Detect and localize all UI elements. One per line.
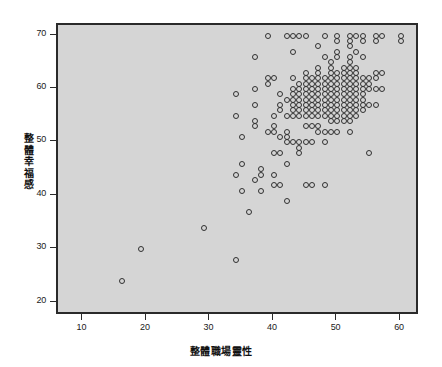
data-point: [296, 33, 302, 39]
data-point: [366, 150, 372, 156]
x-axis-tick-label: 60: [384, 322, 414, 332]
data-point: [334, 129, 340, 135]
data-point: [322, 33, 328, 39]
data-point: [347, 118, 353, 124]
data-point: [309, 113, 315, 119]
x-axis-tick-label: 10: [66, 322, 96, 332]
data-point: [347, 129, 353, 135]
data-point: [239, 188, 245, 194]
data-point: [373, 102, 379, 108]
data-point: [246, 209, 252, 215]
data-point: [233, 172, 239, 178]
data-point: [309, 182, 315, 188]
y-axis-tick-label: 20: [16, 295, 46, 305]
x-axis-title: 整體職場靈性: [0, 343, 442, 358]
data-point: [258, 172, 264, 178]
data-point: [303, 113, 309, 119]
data-point: [296, 150, 302, 156]
data-point: [322, 129, 328, 135]
x-axis-tick-label: 50: [320, 322, 350, 332]
data-point: [353, 33, 359, 39]
data-point: [360, 38, 366, 44]
data-point: [366, 86, 372, 92]
data-point: [252, 102, 258, 108]
data-point: [119, 278, 125, 284]
data-point: [334, 118, 340, 124]
data-point: [290, 139, 296, 145]
data-point: [373, 75, 379, 81]
data-point: [366, 102, 372, 108]
data-point: [334, 38, 340, 44]
data-point: [265, 129, 271, 135]
data-point: [252, 86, 258, 92]
data-point: [233, 257, 239, 263]
data-point: [353, 49, 359, 55]
x-axis-tick: [399, 314, 400, 320]
data-point: [277, 182, 283, 188]
data-point: [379, 33, 385, 39]
data-point: [315, 129, 321, 135]
x-axis-tick-label: 20: [130, 322, 160, 332]
data-point: [284, 113, 290, 119]
data-point: [373, 38, 379, 44]
data-point: [252, 123, 258, 129]
data-point: [322, 113, 328, 119]
y-axis-tick-label: 60: [16, 81, 46, 91]
data-point: [379, 86, 385, 92]
data-point: [271, 113, 277, 119]
data-point: [271, 182, 277, 188]
x-axis-tick-label: 30: [193, 322, 223, 332]
x-axis-tick: [208, 314, 209, 320]
data-point: [290, 113, 296, 119]
data-point: [284, 161, 290, 167]
data-point: [296, 113, 302, 119]
data-point: [322, 182, 328, 188]
data-point: [328, 118, 334, 124]
data-point: [277, 91, 283, 97]
data-points-layer: [58, 25, 416, 312]
data-point: [353, 113, 359, 119]
data-point: [373, 86, 379, 92]
data-point: [322, 139, 328, 145]
data-point: [271, 172, 277, 178]
data-point: [290, 49, 296, 55]
data-point: [360, 107, 366, 113]
data-point: [201, 225, 207, 231]
scatter-plot-figure: 203040506070 整體幸福感 102030405060 整體職場靈性: [0, 0, 442, 367]
data-point: [309, 139, 315, 145]
data-point: [271, 150, 277, 156]
data-point: [233, 113, 239, 119]
data-point: [252, 177, 258, 183]
data-point: [271, 75, 277, 81]
data-point: [258, 188, 264, 194]
data-point: [252, 54, 258, 60]
data-point: [239, 134, 245, 140]
data-point: [303, 139, 309, 145]
x-axis-tick: [272, 314, 273, 320]
data-point: [290, 33, 296, 39]
data-point: [284, 97, 290, 103]
data-point: [315, 43, 321, 49]
data-point: [277, 150, 283, 156]
data-point: [284, 139, 290, 145]
y-axis-title: 整體幸福感: [22, 133, 36, 191]
data-point: [239, 161, 245, 167]
data-point: [303, 123, 309, 129]
data-point: [398, 38, 404, 44]
data-point: [341, 118, 347, 124]
x-axis-tick: [145, 314, 146, 320]
x-axis-tick-label: 40: [257, 322, 287, 332]
data-point: [322, 54, 328, 60]
data-point: [315, 113, 321, 119]
data-point: [284, 198, 290, 204]
data-point: [309, 123, 315, 129]
data-point: [334, 54, 340, 60]
y-axis-tick-label: 70: [16, 28, 46, 38]
data-point: [290, 75, 296, 81]
data-point: [328, 129, 334, 135]
data-point: [233, 91, 239, 97]
data-point: [258, 166, 264, 172]
data-point: [303, 33, 309, 39]
data-point: [265, 81, 271, 87]
y-axis-tick-label: 30: [16, 241, 46, 251]
